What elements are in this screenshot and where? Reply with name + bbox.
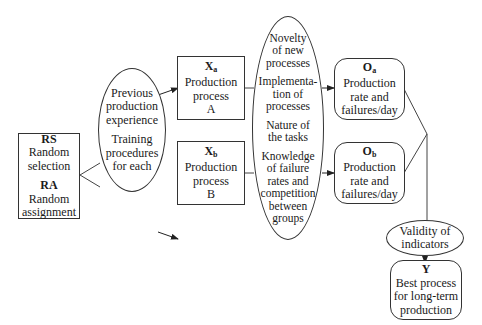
result-box: Y Best process for long-term production (390, 260, 462, 320)
outcome-a-box: Oa Production rate and failures/day (334, 58, 405, 120)
ra-code: RA (22, 179, 76, 193)
validity-ellipse: Validity of indicators (386, 220, 464, 256)
process-b-box: Xb Production process B (177, 141, 245, 205)
process-a-box: Xa Production process A (177, 56, 245, 120)
fork-line-lower (80, 175, 100, 187)
fork-line-upper (80, 163, 100, 175)
random-box: RS Random selection RA Random assignment (18, 133, 80, 219)
arrow-to-process-b (158, 232, 178, 239)
arrow-to-process-a (158, 88, 178, 95)
threats-ellipse: Novelty of new processes Implementa- tio… (252, 16, 324, 240)
prior-experience-ellipse: Previous production experience Training … (98, 68, 166, 192)
outcome-b-box: Ob Production rate and failures/day (334, 142, 405, 204)
rs-code: RS (28, 133, 71, 147)
